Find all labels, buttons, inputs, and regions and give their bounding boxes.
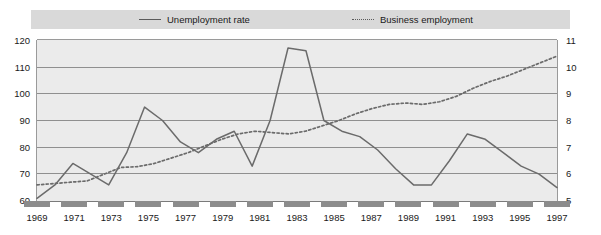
legend-solid-line-icon xyxy=(139,19,161,20)
x-tick-label-1977: 1977 xyxy=(166,213,206,223)
y-left-tick-120: 120 xyxy=(4,36,30,46)
x-tick-block-1969 xyxy=(24,201,50,207)
x-tick-label-1969: 1969 xyxy=(17,213,57,223)
x-tick-label-1997: 1997 xyxy=(537,213,577,223)
y-left-tick-90: 90 xyxy=(4,116,30,126)
legend-item-unemployment-rate: Unemployment rate xyxy=(139,10,250,29)
chart-legend: Unemployment rate Business employment xyxy=(31,10,570,29)
x-tick-block-1993 xyxy=(470,201,496,207)
x-tick-label-1985: 1985 xyxy=(314,213,354,223)
y-axis-right xyxy=(557,40,558,202)
x-tick-block-1973 xyxy=(98,201,124,207)
y-right-tick-8: 8 xyxy=(566,116,592,126)
x-tick-block-1979 xyxy=(210,201,236,207)
legend-dotted-line-icon xyxy=(352,19,374,20)
y-right-tick-11: 11 xyxy=(566,36,592,46)
x-tick-label-1989: 1989 xyxy=(388,213,428,223)
x-tick-block-1985 xyxy=(321,201,347,207)
x-tick-block-1983 xyxy=(284,201,310,207)
y-left-tick-80: 80 xyxy=(4,143,30,153)
x-tick-block-1971 xyxy=(61,201,87,207)
x-tick-label-1973: 1973 xyxy=(91,213,131,223)
x-tick-label-1993: 1993 xyxy=(463,213,503,223)
x-tick-label-1971: 1971 xyxy=(54,213,94,223)
legend-label-unemployment-rate: Unemployment rate xyxy=(167,15,250,25)
x-tick-block-1981 xyxy=(247,201,273,207)
series-layer xyxy=(37,40,557,201)
x-tick-label-1975: 1975 xyxy=(128,213,168,223)
x-tick-label-1983: 1983 xyxy=(277,213,317,223)
x-tick-label-1987: 1987 xyxy=(351,213,391,223)
x-tick-label-1991: 1991 xyxy=(426,213,466,223)
series-line-business-employment xyxy=(37,56,557,185)
y-left-tick-100: 100 xyxy=(4,89,30,99)
x-tick-block-1989 xyxy=(395,201,421,207)
x-tick-block-1977 xyxy=(173,201,199,207)
x-tick-block-1991 xyxy=(433,201,459,207)
chart-root: Unemployment rate Business employment 12… xyxy=(0,0,601,235)
x-tick-label-1995: 1995 xyxy=(500,213,540,223)
y-right-tick-9: 9 xyxy=(566,89,592,99)
x-tick-block-1975 xyxy=(135,201,161,207)
x-tick-block-1987 xyxy=(358,201,384,207)
y-left-tick-70: 70 xyxy=(4,169,30,179)
y-right-tick-6: 6 xyxy=(566,169,592,179)
legend-label-business-employment: Business employment xyxy=(380,15,473,25)
y-right-tick-7: 7 xyxy=(566,143,592,153)
x-tick-block-1997 xyxy=(544,201,570,207)
x-tick-block-1995 xyxy=(507,201,533,207)
x-tick-label-1979: 1979 xyxy=(203,213,243,223)
series-line-unemployment-rate xyxy=(37,48,557,198)
y-left-tick-110: 110 xyxy=(4,63,30,73)
legend-item-business-employment: Business employment xyxy=(352,10,473,29)
y-right-tick-10: 10 xyxy=(566,63,592,73)
x-tick-label-1981: 1981 xyxy=(240,213,280,223)
